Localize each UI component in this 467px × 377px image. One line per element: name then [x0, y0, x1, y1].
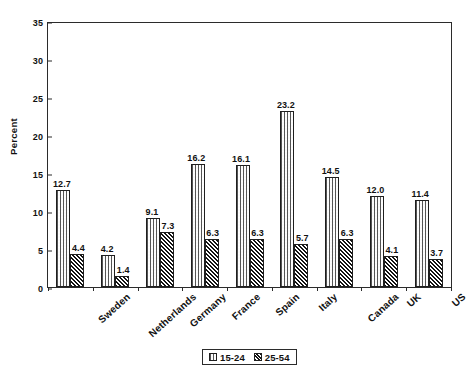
bar-group: 16.16.3	[227, 23, 272, 287]
legend-label-15-24: 15-24	[220, 352, 245, 363]
bar-value-label: 12.7	[53, 179, 71, 189]
bar-value-label: 6.3	[251, 228, 264, 238]
x-axis-label-sweden: Sweden	[96, 291, 132, 325]
bar-value-label: 6.3	[341, 228, 354, 238]
bar-value-label: 12.0	[366, 185, 384, 195]
bar-value-label: 4.2	[101, 244, 114, 254]
bar-spain-25-54[interactable]: 6.3	[250, 239, 264, 287]
bar-uk-25-54[interactable]: 4.1	[384, 256, 398, 287]
bar-group: 16.26.3	[182, 23, 227, 287]
bar-value-label: 5.7	[296, 233, 309, 243]
plot-area: 05101520253035 12.74.44.21.49.17.316.26.…	[47, 22, 452, 288]
bar-value-label: 4.4	[72, 243, 85, 253]
bar-value-label: 6.3	[206, 228, 219, 238]
bar-series-container: 12.74.44.21.49.17.316.26.316.16.323.25.7…	[48, 23, 451, 287]
chart-legend: 15-24 25-54	[202, 349, 297, 365]
bar-value-label: 16.2	[187, 153, 205, 163]
bar-value-label: 4.1	[385, 245, 398, 255]
bar-value-label: 11.4	[412, 189, 429, 199]
bar-netherlands-25-54[interactable]: 1.4	[115, 276, 129, 287]
x-axis-label-spain: Spain	[273, 291, 301, 318]
bar-value-label: 16.1	[232, 154, 250, 164]
bar-sweden-25-54[interactable]: 4.4	[70, 254, 84, 287]
bar-france-25-54[interactable]: 6.3	[205, 239, 219, 287]
legend-item-15-24: 15-24	[209, 352, 245, 363]
bar-netherlands-15-24[interactable]: 4.2	[101, 255, 115, 287]
x-axis-label-us: US	[449, 291, 467, 309]
bar-sweden-15-24[interactable]: 12.7	[56, 190, 70, 287]
bar-group: 12.04.1	[361, 23, 406, 287]
x-axis-category-labels: SwedenNetherlandsGermanyFranceSpainItaly…	[47, 291, 452, 346]
x-axis-label-france: France	[229, 291, 262, 322]
legend-label-25-54: 25-54	[265, 352, 290, 363]
bar-germany-25-54[interactable]: 7.3	[160, 232, 174, 287]
bar-group: 9.17.3	[138, 23, 183, 287]
x-axis-label-netherlands: Netherlands	[146, 291, 198, 339]
bar-canada-25-54[interactable]: 6.3	[339, 239, 353, 287]
bar-germany-15-24[interactable]: 9.1	[146, 218, 160, 287]
bar-spain-15-24[interactable]: 16.1	[236, 165, 250, 287]
bar-uk-15-24[interactable]: 12.0	[370, 196, 384, 287]
bar-value-label: 3.7	[430, 248, 443, 258]
bar-france-15-24[interactable]: 16.2	[191, 164, 205, 287]
bar-value-label: 7.3	[162, 221, 175, 231]
bar-group: 11.43.7	[406, 23, 451, 287]
bar-italy-15-24[interactable]: 23.2	[280, 111, 294, 287]
x-axis-label-uk: UK	[404, 291, 422, 309]
y-axis-tick-label: 5	[38, 246, 48, 256]
x-axis-label-italy: Italy	[316, 291, 339, 313]
bar-italy-25-54[interactable]: 5.7	[294, 244, 308, 287]
legend-item-25-54: 25-54	[254, 352, 290, 363]
y-axis-tick-label: 15	[33, 170, 48, 180]
bar-us-25-54[interactable]: 3.7	[429, 259, 443, 287]
bar-value-label: 23.2	[277, 100, 295, 110]
bar-group: 4.21.4	[93, 23, 138, 287]
bar-value-label: 9.1	[146, 207, 159, 217]
bar-value-label: 1.4	[117, 265, 130, 275]
y-axis-tick-label: 10	[33, 208, 48, 218]
bar-group: 12.74.4	[48, 23, 93, 287]
y-axis-tick-label: 35	[33, 18, 48, 28]
legend-swatch-15-24	[209, 353, 217, 361]
y-axis-tick-label: 30	[33, 56, 48, 66]
legend-swatch-25-54	[254, 353, 262, 361]
bar-group: 14.56.3	[317, 23, 362, 287]
bar-us-15-24[interactable]: 11.4	[415, 200, 429, 287]
y-axis-tick-label: 20	[33, 132, 48, 142]
bar-group: 23.25.7	[272, 23, 317, 287]
x-axis-label-canada: Canada	[365, 291, 400, 324]
bar-canada-15-24[interactable]: 14.5	[325, 177, 339, 287]
y-axis-tick-label: 25	[33, 94, 48, 104]
bar-value-label: 14.5	[322, 166, 340, 176]
y-axis-title: Percent	[8, 118, 19, 155]
bar-chart-figure: Percent 05101520253035 12.74.44.21.49.17…	[0, 0, 467, 377]
